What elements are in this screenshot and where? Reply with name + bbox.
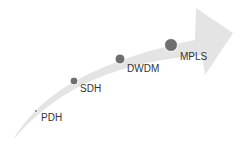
stage-label-mpls: MPLS xyxy=(180,52,207,62)
stage-dot-icon xyxy=(70,77,78,85)
stage-label-pdh: PDH xyxy=(41,113,62,123)
stage-dot-icon xyxy=(35,110,38,113)
stage-label-dwdm: DWDM xyxy=(127,64,159,74)
stage-dot-icon xyxy=(165,39,178,52)
curved-arrow-icon xyxy=(0,0,245,147)
stage-dot-icon xyxy=(115,54,125,64)
stage-label-sdh: SDH xyxy=(80,84,101,94)
evolution-diagram: PDH SDH DWDM MPLS xyxy=(0,0,245,147)
